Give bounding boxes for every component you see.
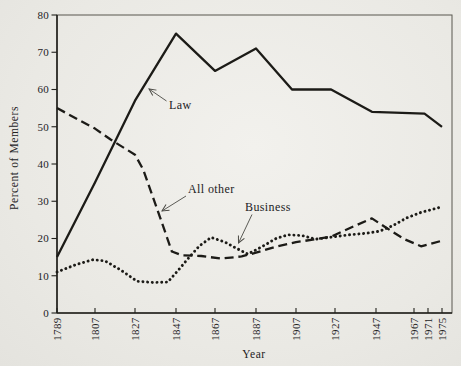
x-tick-label: 1907 <box>290 317 302 340</box>
plot-series <box>57 34 442 283</box>
chart-figure: 0102030405060708017891807182718471867188… <box>0 0 461 366</box>
x-tick-label: 1887 <box>250 317 262 340</box>
x-tick-label: 1807 <box>89 317 101 340</box>
x-tick-label: 1971 <box>422 318 434 341</box>
law-arrow <box>149 89 167 101</box>
all-other-line <box>57 108 442 259</box>
y-tick-label: 30 <box>37 195 49 207</box>
x-tick-label: 1975 <box>436 317 448 340</box>
y-axis-title: Percent of Members <box>8 106 20 210</box>
business-arrow <box>239 215 253 244</box>
all-other-label: All other <box>188 182 235 196</box>
x-axis-title: Year <box>242 348 266 360</box>
law-label: Law <box>169 98 192 112</box>
y-tick-label: 60 <box>37 83 49 95</box>
x-tick-label: 1867 <box>209 317 221 340</box>
y-tick-label: 0 <box>43 307 49 319</box>
y-tick-label: 80 <box>37 9 49 21</box>
business-line <box>57 207 442 283</box>
x-tick-label: 1967 <box>408 317 420 340</box>
x-tick-label: 1789 <box>51 317 63 340</box>
y-tick-label: 10 <box>37 270 49 282</box>
x-tick-label: 1927 <box>329 317 341 340</box>
x-tick-label: 1827 <box>129 317 141 340</box>
series-annotations: Law All other Business <box>149 89 291 243</box>
x-tick-label: 1947 <box>370 317 382 340</box>
law-line <box>57 34 442 258</box>
y-tick-label: 40 <box>37 158 49 170</box>
y-tick-label: 50 <box>37 121 49 133</box>
y-tick-label: 70 <box>37 46 49 58</box>
business-label: Business <box>245 200 291 214</box>
line-chart: 0102030405060708017891807182718471867188… <box>0 0 461 366</box>
y-tick-label: 20 <box>37 232 49 244</box>
x-tick-label: 1847 <box>170 317 182 340</box>
plot-border <box>57 15 452 313</box>
all-other-arrow <box>162 196 186 211</box>
